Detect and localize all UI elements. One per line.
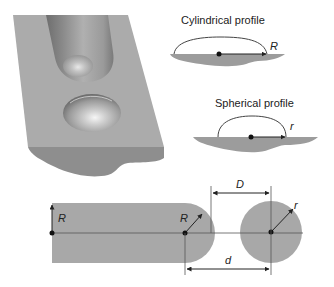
cylindrical-profile-diagram: Cylindrical profile R (170, 14, 285, 66)
cylindrical-profile-title: Cylindrical profile (181, 14, 265, 26)
spherical-droplet (63, 94, 121, 132)
bar-radius-label: R (58, 212, 66, 224)
cylindrical-radius-label: R (270, 40, 278, 52)
cylindrical-slab (170, 54, 285, 66)
diagram-canvas: Cylindrical profile R Spherical profile … (0, 0, 334, 287)
end-radius-label: R (180, 212, 188, 224)
gap-label: D (236, 178, 244, 190)
bar-axis-dot (50, 231, 55, 236)
substrate-3d-render (13, 15, 164, 176)
spherical-radius-label: r (290, 120, 295, 132)
spherical-arc (218, 116, 286, 137)
center-distance-label: d (225, 254, 232, 266)
bottom-schematic: R R r D d (50, 178, 304, 275)
droplet-radius-label: r (294, 199, 299, 211)
bead-highlight (63, 55, 93, 77)
substrate-front-face (28, 147, 164, 176)
spherical-profile-title: Spherical profile (215, 97, 294, 109)
spherical-center-dot (249, 135, 254, 140)
spherical-slab (193, 137, 318, 152)
cylindrical-arc (174, 37, 267, 54)
cylindrical-center-dot (217, 52, 222, 57)
spherical-profile-diagram: Spherical profile r (193, 97, 318, 152)
